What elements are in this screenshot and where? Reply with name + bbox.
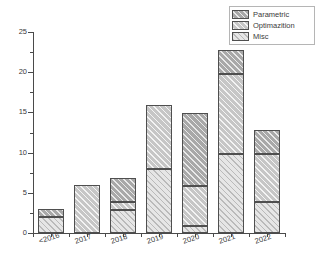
y-tick-mark [28, 72, 33, 73]
bar-lt2016[interactable] [38, 32, 64, 233]
legend-label-optimization: Optimazition [253, 22, 295, 30]
bar-segment-optimazition [146, 105, 172, 169]
bar-segment-misc [146, 169, 172, 233]
x-axis-label-2018: 2018 [110, 233, 128, 245]
y-tick-label: 20 [19, 68, 27, 76]
bar-2021[interactable] [218, 32, 244, 233]
bar-segment-optimazition [218, 74, 244, 154]
y-tick-minor [30, 133, 33, 134]
x-tick-mark-minor [177, 233, 178, 237]
legend-item-parametric[interactable]: Parametric [232, 9, 311, 20]
bar-2022[interactable] [254, 32, 280, 233]
y-tick-minor [30, 213, 33, 214]
legend-item-optimization[interactable]: Optimazition [232, 20, 311, 31]
bar-segment-misc [110, 210, 136, 233]
y-tick-mark [28, 32, 33, 33]
bar-2017[interactable] [74, 32, 100, 233]
plot-area: 2520151050 [33, 32, 285, 233]
x-tick-mark-minor [105, 233, 106, 237]
bar-segment-optimazition [74, 185, 100, 233]
y-tick-label: 0 [23, 229, 27, 237]
legend-item-misc[interactable]: Misc [232, 31, 311, 42]
x-axis-label-2021: 2021 [218, 233, 236, 245]
bar-segment-misc [218, 154, 244, 233]
x-axis-label-2017: 2017 [74, 233, 92, 245]
y-tick-minor [30, 173, 33, 174]
stacked-bar-chart: 2520151050 <2016201720182019202020212022… [0, 0, 319, 273]
chart-legend: Parametric Optimazition Misc [229, 6, 315, 45]
bar-segment-optimazition [254, 154, 280, 202]
x-tick-mark-minor [285, 233, 286, 237]
bar-2018[interactable] [110, 32, 136, 233]
legend-swatch-optimization [232, 21, 249, 30]
x-axis-label-2022: 2022 [254, 233, 272, 245]
bar-segment-parametric [110, 178, 136, 202]
x-tick-mark-minor [33, 233, 34, 237]
y-tick-mark [28, 193, 33, 194]
y-tick-minor [30, 92, 33, 93]
legend-label-misc: Misc [253, 33, 268, 41]
legend-label-parametric: Parametric [253, 11, 289, 19]
x-tick-mark-minor [69, 233, 70, 237]
y-tick-label: 15 [19, 109, 27, 117]
y-tick-label: 5 [23, 189, 27, 197]
legend-swatch-misc [232, 32, 249, 41]
bar-segment-parametric [254, 130, 280, 154]
x-tick-mark-minor [249, 233, 250, 237]
bar-segment-misc [254, 202, 280, 233]
bar-segment-optimazition [110, 202, 136, 210]
bar-segment-misc [38, 217, 64, 233]
y-tick-label: 25 [19, 28, 27, 36]
bar-segment-optimazition [182, 186, 208, 226]
x-axis-label-2019: 2019 [146, 233, 164, 245]
bar-segment-parametric [38, 209, 64, 217]
y-tick-mark [28, 112, 33, 113]
legend-swatch-parametric [232, 10, 249, 19]
y-tick-minor [30, 52, 33, 53]
y-tick-mark [28, 153, 33, 154]
bar-2019[interactable] [146, 32, 172, 233]
y-tick-label: 10 [19, 149, 27, 157]
x-axis-label-2020: 2020 [182, 233, 200, 245]
x-tick-mark-minor [141, 233, 142, 237]
bar-segment-parametric [182, 113, 208, 186]
bar-segment-parametric [218, 50, 244, 73]
bar-2020[interactable] [182, 32, 208, 233]
x-tick-mark-minor [213, 233, 214, 237]
